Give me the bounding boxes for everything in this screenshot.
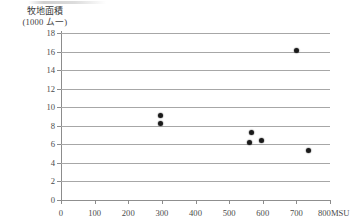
y-tick-label: 4: [29, 158, 55, 168]
y-tick-mark: [57, 52, 61, 53]
x-tick-label: 400: [184, 208, 208, 218]
y-tick-label: 2: [29, 176, 55, 186]
x-tick-mark: [162, 200, 163, 204]
y-axis-title: 牧地面積 (1000 ム一): [2, 6, 88, 27]
y-tick-mark: [57, 163, 61, 164]
y-tick-label: 10: [29, 102, 55, 112]
y-axis-title-line-1: 牧地面積: [2, 6, 88, 17]
x-tick-label: 300: [150, 208, 174, 218]
x-tick-label: 700: [284, 208, 308, 218]
scan-artifact: [28, 1, 106, 4]
y-tick-label: 6: [29, 139, 55, 149]
x-tick-mark: [263, 200, 264, 204]
gridline: [61, 70, 330, 71]
gridline: [61, 52, 330, 53]
y-tick-mark: [57, 70, 61, 71]
gridline: [61, 107, 330, 108]
plot-area: [61, 33, 330, 200]
x-tick-mark: [229, 200, 230, 204]
y-tick-mark: [57, 107, 61, 108]
x-tick-mark: [61, 200, 62, 204]
data-point: [249, 130, 254, 135]
data-point: [259, 138, 264, 143]
data-point: [247, 140, 252, 145]
y-tick-mark: [57, 33, 61, 34]
x-tick-mark: [95, 200, 96, 204]
gridline: [61, 163, 330, 164]
x-tick-mark: [128, 200, 129, 204]
x-tick-label: 200: [116, 208, 140, 218]
gridline: [61, 144, 330, 145]
gridline: [61, 89, 330, 90]
y-tick-mark: [57, 144, 61, 145]
y-tick-label: 18: [29, 28, 55, 38]
data-point: [306, 148, 311, 153]
y-tick-mark: [57, 89, 61, 90]
x-tick-label-with-unit: 800MSU: [318, 208, 350, 218]
x-tick-label: 0: [49, 208, 73, 218]
x-tick-label: 500: [217, 208, 241, 218]
y-tick-label: 14: [29, 65, 55, 75]
y-axis-title-line-2: (1000 ム一): [2, 17, 88, 28]
gridline: [61, 33, 330, 34]
y-tick-label: 12: [29, 84, 55, 94]
x-tick-mark: [296, 200, 297, 204]
y-tick-mark: [57, 126, 61, 127]
data-point: [158, 113, 163, 118]
x-tick-label: 600: [251, 208, 275, 218]
x-tick-label: 100: [83, 208, 107, 218]
x-tick-mark: [196, 200, 197, 204]
x-tick-mark: [330, 200, 331, 204]
y-tick-label: 16: [29, 47, 55, 57]
gridline: [61, 181, 330, 182]
y-tick-label: 8: [29, 121, 55, 131]
y-tick-mark: [57, 181, 61, 182]
y-tick-label: 0: [29, 195, 55, 205]
gridline: [61, 126, 330, 127]
data-point: [294, 48, 299, 53]
